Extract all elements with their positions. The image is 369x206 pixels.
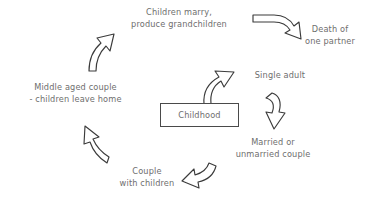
stage-label-couple-with-children: Couple with children — [108, 166, 186, 189]
center-node-label: Childhood — [178, 110, 220, 120]
center-node-childhood: Childhood — [160, 103, 239, 127]
curved-arrow-down-left-icon — [182, 163, 216, 188]
stage-label-single-adult: Single adult — [242, 70, 318, 82]
stage-label-married-couple: Married or unmarried couple — [227, 137, 319, 160]
curved-arrow-up-icon — [89, 34, 114, 71]
curved-arrow-down-icon — [266, 93, 285, 129]
curved-arrow-up-left-icon — [84, 126, 109, 163]
stage-label-death-of-one-partner: Death of one partner — [297, 24, 363, 47]
curved-arrow-up-right-icon — [204, 71, 234, 104]
stage-label-middle-aged-couple: Middle aged couple - children leave home — [13, 82, 138, 105]
life-cycle-diagram: Childhood Single adult Married or unmarr… — [0, 0, 369, 206]
stage-label-children-marry: Children marry, produce grandchildren — [118, 7, 240, 30]
curved-arrow-right-down-icon — [253, 15, 301, 39]
